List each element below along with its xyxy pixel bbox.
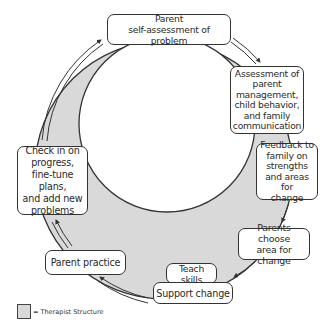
node-parent-practice: Parent practice — [45, 250, 126, 275]
node-assessment: Assessment of parent management, child b… — [230, 66, 304, 134]
arrow-top-to-assessment — [233, 38, 260, 62]
legend: = Therapist Structure — [17, 304, 103, 319]
legend-swatch — [17, 304, 31, 319]
node-check-in: Check in on progress, fine-tune plans, a… — [17, 146, 88, 215]
node-label: Parents choose area for change — [241, 222, 307, 266]
node-label: Support change — [156, 288, 229, 299]
node-label: Feedback to family on strengths and area… — [259, 140, 315, 203]
node-label: Check in on progress, fine-tune plans, a… — [20, 145, 85, 217]
legend-label: = Therapist Structure — [33, 308, 103, 316]
node-parents-choose: Parents choose area for change — [238, 228, 310, 260]
node-label: Assessment of parent management, child b… — [233, 69, 301, 132]
node-parent-self-assessment: Parent self-assessment of problem — [107, 14, 231, 45]
node-feedback: Feedback to family on strengths and area… — [256, 143, 318, 200]
node-label: Parent self-assessment of problem — [110, 13, 228, 46]
node-label: Parent practice — [51, 257, 121, 268]
node-support-change: Support change — [153, 282, 233, 304]
node-teach-skills: Teach skills — [166, 263, 217, 284]
inner-circle — [79, 36, 255, 212]
